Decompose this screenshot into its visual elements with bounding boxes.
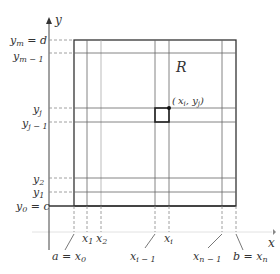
svg-text:ym − 1: ym − 1 — [12, 50, 44, 64]
x-axis-label: x — [268, 236, 275, 250]
x-labels: a = x0 x1 x2 xi − 1 xi xn − 1 b = xn — [52, 232, 268, 264]
point-label: (xi, yj) — [172, 95, 204, 108]
svg-text:x1: x1 — [82, 232, 93, 246]
svg-text:y1: y1 — [32, 186, 44, 200]
svg-text:y2: y2 — [32, 173, 44, 187]
x-dashed-leaders — [74, 206, 236, 232]
svg-text:x2: x2 — [96, 232, 107, 246]
y-axis-arrow-icon — [46, 17, 52, 24]
y-labels: ym = d ym − 1 yj yj − 1 y2 y1 y0 = c — [9, 34, 50, 214]
vertical-grid-lines — [87, 40, 222, 206]
y-axis-label: y — [54, 13, 62, 27]
svg-text:ym = d: ym = d — [9, 34, 47, 48]
svg-text:xi: xi — [164, 232, 173, 246]
region-label: R — [175, 59, 187, 75]
svg-text:xn − 1: xn − 1 — [193, 250, 221, 264]
svg-text:a = x0: a = x0 — [52, 250, 86, 264]
highlighted-subrectangle — [155, 108, 169, 122]
svg-text:xi − 1: xi − 1 — [130, 250, 156, 264]
svg-text:y0 = c: y0 = c — [15, 200, 50, 214]
svg-text:yj − 1: yj − 1 — [21, 117, 48, 131]
svg-text:b = xn: b = xn — [233, 250, 268, 264]
x-axis-arrow-icon — [273, 229, 276, 235]
y-dashed-leaders — [49, 40, 74, 192]
sample-point — [167, 106, 171, 110]
riemann-partition-diagram: x y — [0, 0, 280, 274]
svg-text:yj: yj — [32, 103, 42, 117]
